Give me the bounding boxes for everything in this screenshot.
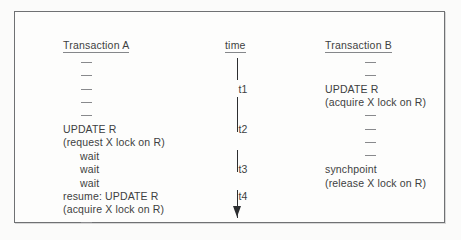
event-row-release-lock: (release X lock on R)	[325, 177, 461, 190]
event-row	[325, 56, 461, 69]
figure-frame: Transaction A time Transaction B UPDATE …	[14, 11, 445, 223]
continuation-dash-icon	[365, 142, 376, 143]
continuation-dash-icon	[81, 62, 92, 63]
event-row	[325, 150, 461, 163]
event-row	[63, 96, 213, 109]
continuation-dash-icon	[365, 115, 376, 116]
time-mark-blank	[213, 56, 265, 69]
continuation-dash-icon	[365, 75, 376, 76]
time-mark-blank	[213, 96, 265, 109]
time-mark-t2: t2	[213, 123, 265, 136]
column-header-transaction-b: Transaction B	[325, 40, 392, 53]
event-row	[325, 110, 461, 123]
continuation-dash-icon	[81, 115, 92, 116]
event-row-wait: wait	[63, 150, 213, 163]
event-row-update: UPDATE R	[63, 123, 213, 136]
column-header-time: time	[225, 40, 246, 53]
event-row-acquire-lock: (acquire X lock on R)	[63, 203, 213, 216]
continuation-dash-icon	[81, 75, 92, 76]
time-mark-blank	[213, 150, 265, 163]
time-mark-blank	[213, 110, 265, 123]
continuation-dash-icon	[81, 222, 92, 223]
continuation-dash-icon	[81, 102, 92, 103]
event-row	[63, 69, 213, 82]
continuation-dash-icon	[365, 129, 376, 130]
transaction-a-event-list: UPDATE R (request X lock on R) wait wait…	[63, 56, 213, 230]
event-row-update: UPDATE R	[325, 83, 461, 96]
event-row	[63, 110, 213, 123]
time-mark-list: t1 t2 t3 t4	[213, 56, 265, 230]
event-row-wait: wait	[63, 177, 213, 190]
time-mark-t3: t3	[213, 163, 265, 176]
continuation-dash-icon	[81, 89, 92, 90]
event-row	[325, 136, 461, 149]
event-row	[325, 123, 461, 136]
time-mark-blank	[213, 177, 265, 190]
transaction-b-event-list: UPDATE R (acquire X lock on R) synchpoin…	[325, 56, 461, 190]
time-mark-blank	[213, 203, 265, 216]
event-row-acquire-lock: (acquire X lock on R)	[325, 96, 461, 109]
time-mark-t4: t4	[213, 190, 265, 203]
time-mark-blank	[213, 136, 265, 149]
event-row-synchpoint: synchpoint	[325, 163, 461, 176]
event-row	[63, 83, 213, 96]
event-row-resume-update: resume: UPDATE R	[63, 190, 213, 203]
time-mark-blank	[213, 69, 265, 82]
time-mark-blank	[213, 217, 265, 230]
event-row	[63, 217, 213, 230]
event-row-wait: wait	[63, 163, 213, 176]
continuation-dash-icon	[365, 155, 376, 156]
continuation-dash-icon	[365, 62, 376, 63]
event-row-request-lock: (request X lock on R)	[63, 136, 213, 149]
event-row	[325, 69, 461, 82]
time-mark-t1: t1	[213, 83, 265, 96]
column-header-transaction-a: Transaction A	[63, 40, 129, 53]
event-row	[63, 56, 213, 69]
